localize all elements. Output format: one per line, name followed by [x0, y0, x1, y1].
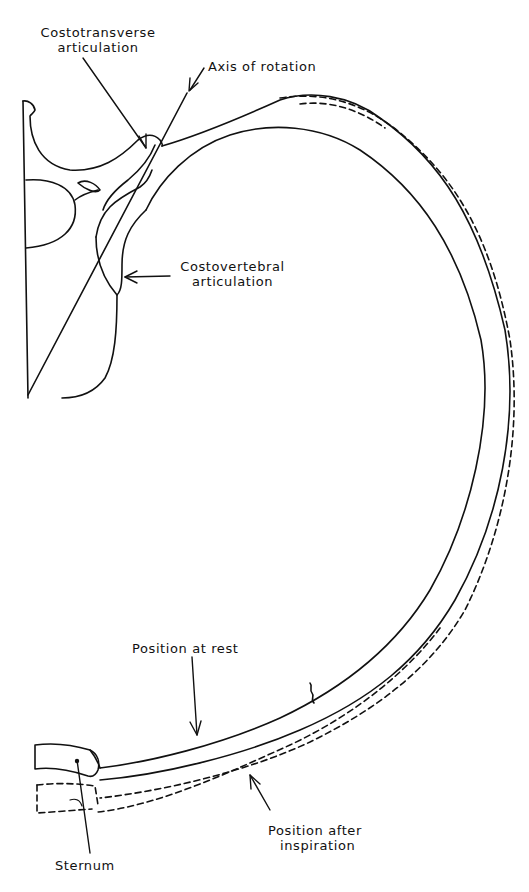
- axis-of-rotation-line: [28, 93, 187, 395]
- sternum-at-rest: [35, 744, 100, 776]
- diagram-drawing: [0, 0, 529, 892]
- position-at-rest-label: Position at rest: [132, 641, 238, 656]
- rib-after-inspiration: [37, 96, 514, 813]
- costovertebral-label-line1: Costovertebral: [170, 259, 295, 274]
- rib-at-rest: [100, 95, 510, 780]
- inspiration-label-line1: Position after: [268, 823, 362, 838]
- costovertebral-label: Costovertebral articulation: [170, 259, 295, 289]
- axis-of-rotation-label: Axis of rotation: [208, 59, 316, 74]
- sternum-label: Sternum: [55, 858, 115, 873]
- rib-rotation-diagram: Costotransverse articulation Axis of rot…: [0, 0, 529, 892]
- costovertebral-label-line2: articulation: [170, 274, 295, 289]
- sternum-tick: [70, 799, 82, 806]
- costotransverse-label-line2: articulation: [28, 40, 168, 55]
- inspiration-label-line2: inspiration: [268, 838, 362, 853]
- costotransverse-label: Costotransverse articulation: [28, 25, 168, 55]
- vertebra: [23, 101, 162, 398]
- position-after-inspiration-label: Position after inspiration: [268, 823, 362, 853]
- costotransverse-label-line1: Costotransverse: [28, 25, 168, 40]
